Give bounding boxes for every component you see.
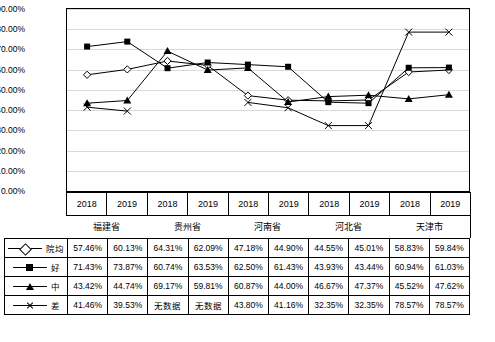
series-lines	[67, 9, 469, 191]
data-point-marker	[124, 39, 130, 45]
data-point-marker	[124, 66, 131, 73]
data-point-marker	[325, 99, 331, 105]
x-group-label: 福建省	[66, 215, 147, 238]
table-cell: 32.35%	[309, 296, 349, 315]
data-point-marker	[164, 47, 172, 54]
series-line	[87, 61, 449, 101]
table-cell: 无数据	[188, 296, 228, 315]
table-cell: 44.00%	[268, 277, 308, 296]
table-cell: 44.90%	[268, 239, 308, 258]
table-cell: 46.67%	[309, 277, 349, 296]
legend-label: 中	[51, 280, 60, 292]
table-cell: 32.35%	[349, 296, 389, 315]
table-cell: 43.80%	[228, 296, 268, 315]
table-cell: 60.74%	[148, 258, 188, 277]
table-cell: 60.94%	[389, 258, 429, 277]
series-line	[87, 51, 449, 103]
table-cell: 41.46%	[68, 296, 108, 315]
data-point-marker	[446, 65, 452, 71]
y-tick-label: 40.00%	[0, 105, 25, 115]
table-cell: 47.37%	[349, 277, 389, 296]
table-cell: 43.93%	[309, 258, 349, 277]
legend-label: 院均	[46, 242, 64, 254]
y-tick-label: 70.00%	[0, 44, 25, 54]
data-point-marker	[285, 64, 291, 70]
x-group-label: 贵州省	[147, 215, 228, 238]
data-point-marker	[164, 57, 171, 64]
legend-symbol	[13, 281, 47, 291]
data-point-marker	[205, 60, 211, 66]
table-cell: 47.18%	[228, 239, 268, 258]
series-line	[87, 42, 449, 104]
data-point-marker	[84, 71, 91, 78]
table-cell: 73.87%	[108, 258, 148, 277]
table-cell: 63.53%	[188, 258, 228, 277]
y-tick-label: 80.00%	[0, 24, 25, 34]
x-tick-label: 2019	[187, 193, 227, 216]
x-tick-label: 2019	[349, 193, 389, 216]
legend-symbol	[8, 243, 42, 253]
series-line	[87, 107, 127, 111]
x-tick-label: 2018	[66, 193, 106, 216]
y-tick-label: 20.00%	[0, 146, 25, 156]
legend-entry: 好	[5, 258, 68, 277]
table-row: 中43.42%44.74%69.17%59.81%60.87%44.00%46.…	[5, 277, 470, 296]
x-tick-label: 2019	[430, 193, 470, 216]
data-point-marker	[244, 92, 251, 99]
table-cell: 71.43%	[68, 258, 108, 277]
legend-entry: 中	[5, 277, 68, 296]
table-cell: 60.87%	[228, 277, 268, 296]
x-axis-year-row: 2018201920182019201820192018201920182019	[66, 192, 471, 216]
table-row: 差41.46%39.53%无数据无数据43.80%41.16%32.35%32.…	[5, 296, 470, 315]
table-cell: 43.44%	[349, 258, 389, 277]
legend-symbol	[13, 262, 47, 272]
table-cell: 43.42%	[68, 277, 108, 296]
x-tick-label: 2018	[389, 193, 429, 216]
legend-symbol	[13, 300, 47, 310]
table-cell: 64.31%	[148, 239, 188, 258]
data-table: 院均57.46%60.13%64.31%62.09%47.18%44.90%44…	[4, 238, 470, 315]
table-cell: 59.84%	[429, 239, 469, 258]
x-tick-label: 2019	[268, 193, 308, 216]
table-cell: 62.50%	[228, 258, 268, 277]
x-tick-label: 2018	[308, 193, 348, 216]
table-cell: 62.09%	[188, 239, 228, 258]
x-tick-label: 2018	[228, 193, 268, 216]
table-cell: 39.53%	[108, 296, 148, 315]
legend-entry: 院均	[5, 239, 68, 258]
table-cell: 61.03%	[429, 258, 469, 277]
y-tick-label: 10.00%	[0, 166, 25, 176]
data-point-marker	[366, 100, 372, 106]
y-tick-label: 30.00%	[0, 125, 25, 135]
data-point-marker	[165, 65, 171, 71]
table-cell: 69.17%	[148, 277, 188, 296]
table-cell: 61.43%	[268, 258, 308, 277]
x-tick-label: 2019	[106, 193, 146, 216]
series-line	[248, 32, 449, 126]
x-axis-header: 2018201920182019201820192018201920182019…	[66, 192, 470, 238]
table-cell: 59.81%	[188, 277, 228, 296]
x-tick-label: 2018	[147, 193, 187, 216]
y-tick-label: 90.00%	[0, 4, 25, 14]
data-point-marker	[445, 91, 453, 98]
table-cell: 45.52%	[389, 277, 429, 296]
table-cell: 无数据	[148, 296, 188, 315]
table-cell: 47.62%	[429, 277, 469, 296]
table-cell: 78.57%	[389, 296, 429, 315]
x-group-label: 河南省	[228, 215, 309, 238]
legend-entry: 差	[5, 296, 68, 315]
x-axis-group-row: 福建省贵州省河南省河北省天津市	[66, 215, 471, 238]
table-cell: 78.57%	[429, 296, 469, 315]
x-group-label: 天津市	[389, 215, 470, 238]
data-point-marker	[84, 44, 90, 50]
x-group-label: 河北省	[308, 215, 389, 238]
table-cell: 44.55%	[309, 239, 349, 258]
table-cell: 60.13%	[108, 239, 148, 258]
plot-area	[66, 8, 470, 192]
y-tick-label: 60.00%	[0, 65, 25, 75]
y-tick-label: 0.00%	[0, 186, 25, 196]
table-cell: 41.16%	[268, 296, 308, 315]
legend-label: 差	[51, 299, 60, 311]
legend-label: 好	[51, 261, 60, 273]
data-point-marker	[365, 91, 373, 98]
